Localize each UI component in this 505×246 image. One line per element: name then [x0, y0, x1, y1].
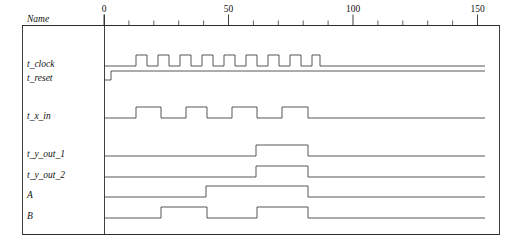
- timing-diagram-window: 050100150 Name t_clockt_resett_x_int_y_o…: [0, 0, 505, 246]
- signal-label-t-reset[interactable]: t_reset: [27, 73, 53, 83]
- waveform-a[interactable]: [104, 186, 485, 197]
- waveform-t-y-out-1[interactable]: [104, 145, 485, 156]
- waveform-t-x-in[interactable]: [104, 107, 485, 118]
- axis-tick-label: 150: [470, 4, 485, 14]
- signal-label-t-clock[interactable]: t_clock: [27, 59, 55, 69]
- waveform-area[interactable]: [104, 55, 485, 218]
- signal-label-b[interactable]: B: [27, 211, 33, 221]
- signal-label-t-x-in[interactable]: t_x_in: [27, 111, 51, 121]
- timing-diagram-canvas[interactable]: 050100150 Name t_clockt_resett_x_int_y_o…: [0, 0, 505, 246]
- signal-label-a[interactable]: A: [26, 190, 33, 200]
- waveform-b[interactable]: [104, 207, 485, 218]
- signal-label-t-y-out-2[interactable]: t_y_out_2: [27, 170, 65, 180]
- signal-name-column[interactable]: t_clockt_resett_x_int_y_out_1t_y_out_2AB: [26, 59, 65, 221]
- waveform-t-clock[interactable]: [104, 55, 485, 66]
- axis-tick-label: 50: [224, 4, 234, 14]
- diagram-frame: [23, 15, 500, 235]
- name-column-header: Name: [26, 14, 49, 24]
- axis-tick-label: 0: [102, 4, 107, 14]
- time-ruler: 050100150: [102, 4, 485, 26]
- signal-label-t-y-out-1[interactable]: t_y_out_1: [27, 149, 65, 159]
- waveform-t-y-out-2[interactable]: [104, 166, 485, 177]
- axis-tick-label: 100: [346, 4, 361, 14]
- waveform-t-reset[interactable]: [104, 71, 485, 80]
